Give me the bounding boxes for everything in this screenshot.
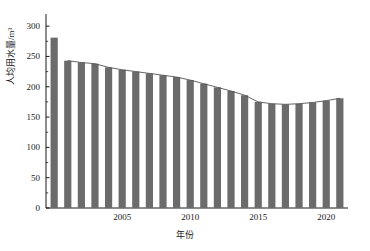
bar-series: [51, 38, 344, 208]
bar: [214, 87, 221, 208]
bar: [187, 80, 194, 208]
bar: [268, 104, 275, 208]
bar: [119, 70, 126, 208]
plot-area: [0, 0, 370, 251]
bar: [146, 73, 153, 208]
bar: [173, 77, 180, 208]
bar: [255, 102, 262, 208]
bar: [132, 72, 139, 208]
bar: [227, 91, 234, 208]
bar: [323, 101, 330, 208]
bar: [241, 95, 248, 208]
axis-lines: [46, 14, 348, 208]
bar: [78, 63, 85, 209]
bar: [295, 104, 302, 208]
bar: [159, 75, 166, 208]
bar: [91, 64, 98, 208]
chart-container: 人均用水量/m³ 年份 050100150200250300 200520102…: [0, 0, 370, 251]
bar: [64, 61, 71, 208]
bar: [309, 103, 316, 208]
bar: [51, 38, 58, 208]
bar: [105, 67, 112, 208]
bar: [200, 84, 207, 208]
bar: [336, 98, 343, 208]
bar: [282, 104, 289, 208]
y-axis-ticks: [46, 26, 50, 208]
